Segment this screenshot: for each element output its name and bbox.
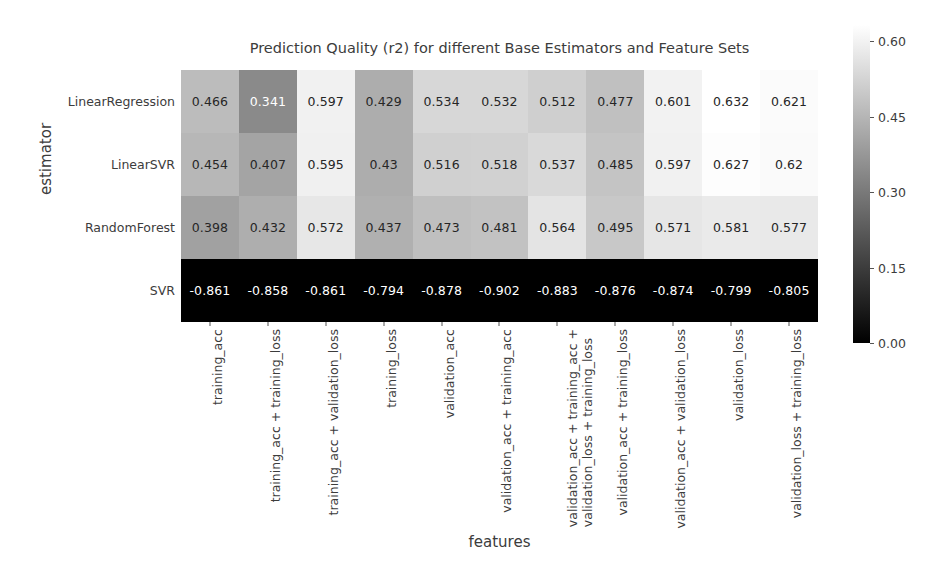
heatmap-cell: 0.495 [586,196,644,259]
x-tick-mark [499,322,500,326]
colorbar-tick-label: 0.60 [878,34,906,49]
x-tick-label: validation_acc [442,329,457,418]
y-tick-label: RandomForest [15,220,175,235]
heatmap-cell-value: 0.518 [481,157,517,172]
heatmap-cell: 0.627 [702,133,760,196]
heatmap-cell-value: 0.632 [713,94,749,109]
x-tick-mark [731,322,732,326]
heatmap-cell: 0.564 [528,196,586,259]
heatmap-cell-value: 0.407 [250,157,286,172]
heatmap-cell: 0.512 [528,70,586,133]
heatmap-cell-value: 0.466 [192,94,228,109]
x-tick-label-line: training_acc + training_loss [268,329,283,502]
x-tick-group: validation_acc + training_acc +validatio… [528,322,586,518]
heatmap-cell: 0.43 [355,133,413,196]
x-tick-label: validation_loss + training_loss [789,329,804,518]
x-tick-group: validation_acc + training_loss [586,322,644,518]
x-tick-group: validation_acc + validation_loss [644,322,702,518]
x-tick-label: training_loss [384,329,399,408]
x-axis-title: features [181,533,818,551]
heatmap-cell: 0.601 [644,70,702,133]
heatmap-cell-value: 0.512 [539,94,575,109]
x-tick-label-line: validation_loss + training_loss [789,329,804,518]
heatmap-cell: -0.861 [297,259,355,322]
heatmap-cell-value: -0.794 [363,283,404,298]
heatmap-figure: Prediction Quality (r2) for different Ba… [0,0,952,574]
heatmap-cell: 0.407 [239,133,297,196]
heatmap-cell-value: 0.43 [370,157,398,172]
heatmap-cell-value: 0.571 [655,220,691,235]
colorbar [853,25,870,343]
x-tick-label: validation_acc + validation_loss [673,329,688,529]
x-tick-label: training_acc [210,329,225,405]
heatmap-cell-value: 0.485 [597,157,633,172]
heatmap-cell: -0.874 [644,259,702,322]
heatmap-cell-value: -0.858 [247,283,288,298]
heatmap-cell: 0.595 [297,133,355,196]
heatmap-cell: 0.581 [702,196,760,259]
heatmap-cell: 0.597 [644,133,702,196]
heatmap-cell-value: 0.481 [481,220,517,235]
x-tick-mark [209,322,210,326]
heatmap-cell-value: 0.581 [713,220,749,235]
x-tick-mark [557,322,558,326]
heatmap-cell: 0.621 [760,70,818,133]
x-tick-label: validation_acc + training_loss [615,329,630,515]
heatmap-cell-value: -0.861 [305,283,346,298]
heatmap-cell: 0.481 [471,196,529,259]
heatmap-cell-value: 0.432 [250,220,286,235]
heatmap-cell: 0.516 [413,133,471,196]
heatmap-cell-value: 0.534 [423,94,459,109]
x-tick-label-line: training_acc [210,329,225,405]
x-tick-label: validation_acc + training_acc [499,329,514,513]
heatmap-cell: 0.398 [181,196,239,259]
x-tick-mark [383,322,384,326]
x-tick-group: training_loss [355,322,413,518]
heatmap-cell-value: -0.874 [653,283,694,298]
x-tick-mark [789,322,790,326]
x-tick-label-line: validation_acc [442,329,457,418]
x-tick-label-line: validation_acc + training_acc [499,329,514,513]
heatmap-cell-value: -0.883 [537,283,578,298]
x-tick-mark [673,322,674,326]
heatmap-cell: 0.534 [413,70,471,133]
heatmap-cell: 0.571 [644,196,702,259]
x-tick-label-line: training_loss [384,329,399,408]
x-tick-label: validation_loss [731,329,746,421]
heatmap-cell: 0.577 [760,196,818,259]
x-tick-label: training_acc + training_loss [268,329,283,502]
heatmap-cell-value: 0.621 [771,94,807,109]
colorbar-tick-mark [870,268,874,269]
colorbar-gradient [853,25,870,343]
heatmap-cell: 0.537 [528,133,586,196]
x-tick-group: validation_acc + training_acc [471,322,529,518]
colorbar-tick-mark [870,117,874,118]
x-tick-mark [325,322,326,326]
heatmap-cell-value: -0.861 [190,283,231,298]
y-axis-ticks: LinearRegressionLinearSVRRandomForestSVR [11,70,175,322]
heatmap-cell: 0.477 [586,70,644,133]
heatmap-cell: 0.632 [702,70,760,133]
colorbar-tick-label: 0.30 [878,185,906,200]
colorbar-tick-label: 0.00 [878,336,906,351]
heatmap-cell: 0.518 [471,133,529,196]
heatmap-cell: -0.858 [239,259,297,322]
heatmap-cell: -0.794 [355,259,413,322]
y-tick-label: LinearRegression [15,94,175,109]
x-tick-group: training_acc + validation_loss [297,322,355,518]
heatmap-cell-value: 0.595 [308,157,344,172]
colorbar-tick-mark [870,343,874,344]
x-axis-ticks: training_acctraining_acc + training_loss… [181,322,818,522]
x-tick-group: validation_loss [702,322,760,518]
heatmap-cell: 0.572 [297,196,355,259]
x-tick-label-line: training_acc + validation_loss [326,329,341,515]
heatmap-cell-value: 0.437 [366,220,402,235]
heatmap-cell-value: 0.597 [655,157,691,172]
heatmap-cell: 0.532 [471,70,529,133]
heatmap-cell: 0.341 [239,70,297,133]
x-tick-mark [615,322,616,326]
heatmap-cell-value: 0.454 [192,157,228,172]
heatmap-cell-value: 0.627 [713,157,749,172]
heatmap-cell-value: 0.577 [771,220,807,235]
heatmap-cell-value: 0.601 [655,94,691,109]
